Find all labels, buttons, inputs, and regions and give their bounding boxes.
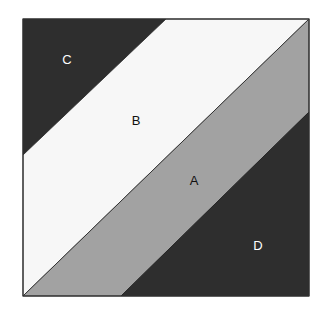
region-c-label: C [62,52,71,67]
region-a-label: A [190,173,199,188]
region-b-label: B [132,113,141,128]
region-d-label: D [253,238,262,253]
band-diagram: C B A D [0,0,321,310]
